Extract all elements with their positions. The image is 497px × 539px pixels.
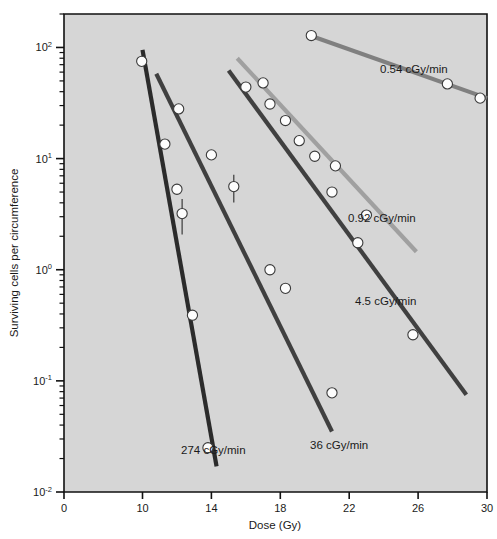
data-point-marker [280,115,290,125]
data-point-marker [327,187,337,197]
survival-curve-chart: 10210110010-110-2 0101418222630 0.54 cGy… [0,0,497,539]
data-point-marker [353,238,363,248]
data-point-marker [310,151,320,161]
series-label-annotation: 274 cGy/min [181,444,246,456]
series-label-annotation: 0.92 cGy/min [348,212,416,224]
y-axis-title: Surviving cells per circumference [8,169,20,338]
data-point-marker [294,136,304,146]
x-tick-label: 14 [205,502,217,514]
data-point-marker [265,99,275,109]
x-tick-label: 10 [136,502,148,514]
data-point-marker [408,330,418,340]
series-label-annotation: 0.54 cGy/min [380,63,448,75]
data-point-marker [229,181,239,191]
data-point-marker [241,82,251,92]
x-axis-title: Dose (Gy) [249,519,302,531]
series-label-annotation: 4.5 cGy/min [355,295,416,307]
data-point-marker [306,30,316,40]
data-point-marker [265,265,275,275]
series-label-annotation: 36 cGy/min [310,439,368,451]
plot-area-background [64,14,487,492]
data-point-marker [280,283,290,293]
data-point-marker [160,139,170,149]
chart-figure: 10210110010-110-2 0101418222630 0.54 cGy… [0,0,497,539]
data-point-marker [172,184,182,194]
x-tick-label: 26 [412,502,424,514]
x-tick-label: 22 [343,502,355,514]
data-point-marker [330,161,340,171]
data-point-marker [177,208,187,218]
data-point-marker [442,79,452,89]
x-tick-label: 0 [61,502,67,514]
data-point-marker [327,388,337,398]
data-point-marker [206,150,216,160]
data-point-marker [475,93,485,103]
data-point-marker [174,104,184,114]
data-point-marker [137,56,147,66]
x-tick-label: 30 [481,502,493,514]
x-tick-label: 18 [274,502,286,514]
data-point-marker [258,78,268,88]
data-point-marker [187,310,197,320]
